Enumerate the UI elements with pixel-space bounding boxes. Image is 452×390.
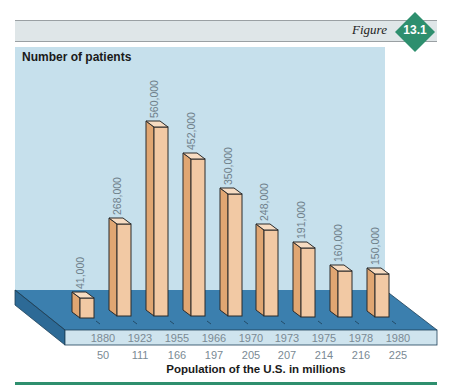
bar-1973 bbox=[256, 224, 278, 316]
x-tick-year: 1880 bbox=[86, 332, 120, 344]
bar-1955 bbox=[146, 121, 168, 316]
bar-1980 bbox=[367, 268, 389, 317]
bar-value-label: 41,000 bbox=[74, 257, 86, 289]
bar-1923 bbox=[109, 218, 131, 316]
x-tick-population: 225 bbox=[381, 349, 415, 361]
bar-1978 bbox=[330, 265, 352, 317]
x-tick-year: 1973 bbox=[270, 332, 304, 344]
bar-value-label: 452,000 bbox=[185, 112, 197, 150]
bottom-rule bbox=[15, 382, 437, 385]
x-tick-population: 205 bbox=[234, 349, 268, 361]
x-tick-year: 1955 bbox=[160, 332, 194, 344]
x-tick-year: 1980 bbox=[381, 332, 415, 344]
x-tick-year: 1966 bbox=[197, 332, 231, 344]
x-tick-population: 111 bbox=[123, 349, 157, 361]
x-tick-year: 1975 bbox=[307, 332, 341, 344]
x-tick-population: 197 bbox=[197, 349, 231, 361]
bar-value-label: 248,000 bbox=[258, 183, 270, 221]
bar-value-label: 191,000 bbox=[295, 201, 307, 239]
x-axis-title: Population of the U.S. in millions bbox=[0, 363, 452, 375]
x-tick-year: 1923 bbox=[123, 332, 157, 344]
bar-1880 bbox=[72, 292, 94, 318]
x-tick-population: 50 bbox=[86, 349, 120, 361]
bar-value-label: 350,000 bbox=[222, 147, 234, 185]
bar-value-label: 150,000 bbox=[369, 227, 381, 265]
bar-1970 bbox=[220, 188, 242, 316]
x-tick-year: 1970 bbox=[234, 332, 268, 344]
bar-value-label: 268,000 bbox=[111, 177, 123, 215]
bar-value-label: 560,000 bbox=[148, 80, 160, 118]
x-tick-population: 216 bbox=[344, 349, 378, 361]
x-tick-population: 207 bbox=[270, 349, 304, 361]
x-tick-population: 166 bbox=[160, 349, 194, 361]
bar-1966 bbox=[183, 153, 205, 316]
bar-1975 bbox=[293, 242, 315, 317]
x-tick-population: 214 bbox=[307, 349, 341, 361]
x-tick-year: 1978 bbox=[344, 332, 378, 344]
bar-value-label: 160,000 bbox=[332, 224, 344, 262]
